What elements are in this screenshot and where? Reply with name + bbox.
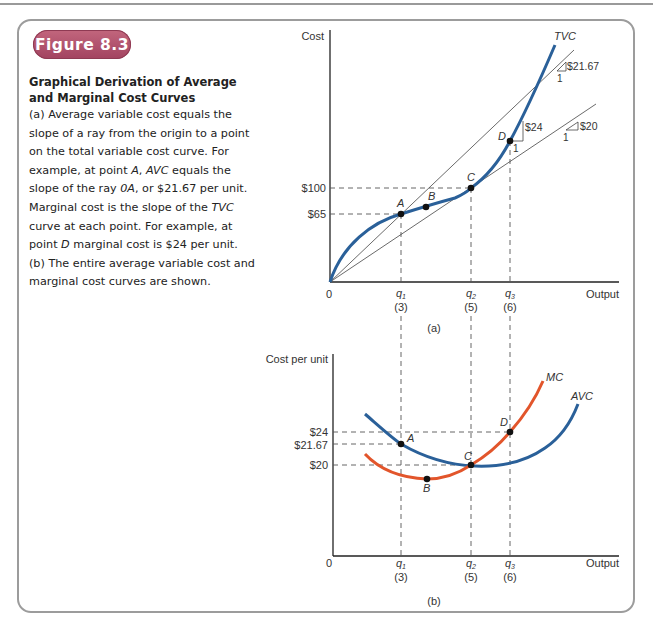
avc-label: AVC [570,390,593,402]
label-a-bottom: A [406,432,414,444]
chart-b: Cost per unit Output 0 MC AVC $24 $21.67… [0,0,653,636]
svg-text:(3): (3) [394,571,407,583]
point-c-bottom [468,462,475,469]
chart-b-panel-label: (b) [427,595,440,607]
point-d-bottom [507,429,514,436]
chart-b-xticks: q1 (3) q2 (5) q3 (6) [394,557,516,583]
chart-b-ylabel: Cost per unit [266,353,328,365]
chart-b-ytick-2167: $21.67 [294,439,328,451]
svg-text:q3: q3 [505,557,515,570]
svg-text:(6): (6) [503,571,516,583]
mc-label: MC [546,371,563,383]
label-b-bottom: B [423,482,430,494]
label-d-bottom: D [500,416,508,428]
svg-text:q1: q1 [396,557,406,570]
point-a-bottom [398,441,405,448]
chart-b-guides [333,432,510,465]
chart-b-ytick-24: $24 [310,426,328,438]
svg-text:q2: q2 [466,557,476,570]
chart-b-origin: 0 [326,557,332,569]
chart-b-xlabel: Output [586,557,619,569]
chart-b-ytick-20: $20 [310,459,328,471]
svg-text:(5): (5) [464,571,477,583]
label-c-bottom: C [464,450,472,462]
